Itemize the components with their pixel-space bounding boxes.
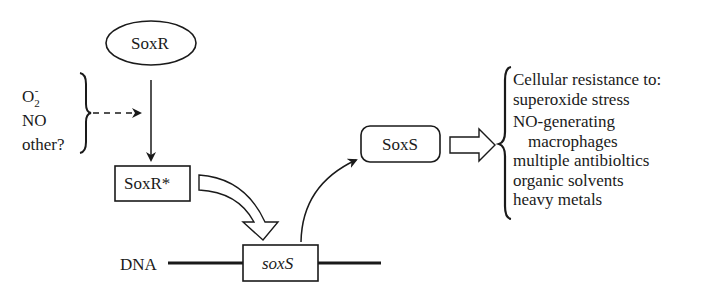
effect-item: multiple antibioltics	[513, 151, 661, 171]
effects-brace-icon	[499, 67, 511, 219]
soxs-gene-label: soxS	[262, 255, 293, 272]
soxs-protein-label: SoxS	[382, 136, 418, 153]
effect-item: organic solvents	[513, 171, 661, 191]
effect-arrow-icon	[450, 129, 495, 161]
superoxide-superscript: -	[35, 84, 39, 96]
effects-list: Cellular resistance to: superoxide stres…	[513, 70, 661, 210]
stimulus-other: other?	[22, 136, 64, 153]
soxr-active-label: SoxR*	[124, 175, 170, 192]
superoxide-base: O	[22, 87, 34, 106]
transcription-activation-arrow-icon	[199, 175, 278, 240]
superoxide-subscript: 2	[34, 97, 40, 109]
dna-label: DNA	[120, 256, 157, 273]
stimuli-brace-icon	[80, 73, 91, 153]
expression-arrow	[301, 160, 356, 242]
effect-item-continuation: macrophages	[513, 132, 661, 152]
stimulus-nitric-oxide: NO	[22, 112, 47, 129]
effect-item: superoxide stress	[513, 90, 661, 110]
soxr-label: SoxR	[131, 35, 169, 52]
effect-item: NO-generating	[513, 112, 661, 132]
effects-heading: Cellular resistance to:	[513, 70, 661, 90]
effect-item: heavy metals	[513, 190, 661, 210]
stimulus-superoxide: O2-	[22, 88, 38, 107]
